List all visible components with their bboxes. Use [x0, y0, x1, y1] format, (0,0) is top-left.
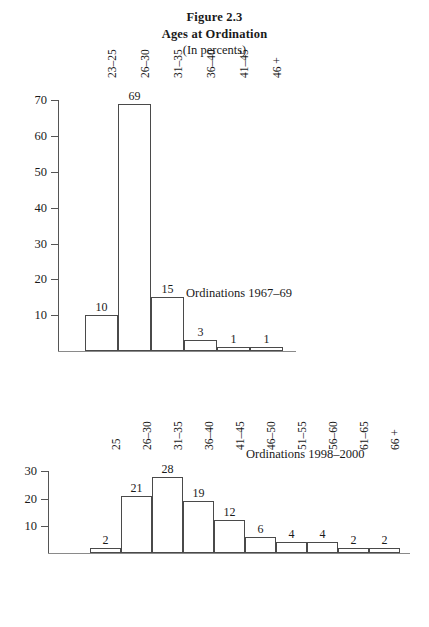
y-axis-tick	[51, 244, 58, 245]
x-axis-category-label: 41–45	[235, 421, 247, 450]
bar-value-label: 10	[85, 301, 118, 313]
chart2-annotation: Ordinations 1998–2000	[246, 448, 364, 461]
x-axis-category-label: 26–30	[142, 421, 154, 450]
x-axis-category-label: 61–65	[359, 421, 371, 450]
bar-value-label: 2	[338, 534, 369, 546]
bar	[217, 347, 250, 351]
chart-ordinations-1998-2000: 1020302252126–302831–351936–401241–45646…	[0, 440, 429, 627]
bar-value-label: 3	[184, 326, 217, 338]
x-axis-category-label: 36–40	[206, 49, 218, 78]
bar	[118, 104, 151, 351]
bar-value-label: 28	[152, 463, 183, 475]
bar-value-label: 2	[90, 534, 121, 546]
x-axis-category-label: 31–35	[173, 49, 185, 78]
x-axis-category-label: 25	[111, 439, 123, 451]
bar	[214, 520, 245, 553]
y-axis-tick	[41, 499, 48, 500]
x-axis-line	[48, 553, 410, 554]
bar	[121, 496, 152, 553]
x-axis-category-label: 26–30	[140, 49, 152, 78]
figure-title: Ages at Ordination	[0, 26, 429, 43]
bar	[245, 537, 276, 553]
y-axis-tick	[41, 526, 48, 527]
bar-value-label: 12	[214, 506, 245, 518]
bar-value-label: 69	[118, 90, 151, 102]
bar	[183, 501, 214, 553]
y-axis-tick	[51, 100, 58, 101]
y-axis-tick-label: 30	[16, 238, 47, 251]
x-axis-category-label: 23–25	[107, 49, 119, 78]
bar	[250, 347, 283, 351]
bar-value-label: 21	[121, 482, 152, 494]
bar-value-label: 6	[245, 523, 276, 535]
bar	[369, 548, 400, 553]
bar	[184, 340, 217, 351]
bar	[152, 477, 183, 553]
y-axis-tick-label: 30	[6, 465, 37, 478]
y-axis-tick	[51, 136, 58, 137]
x-axis-category-label: 31–35	[173, 421, 185, 450]
x-axis-category-label: 56–60	[328, 421, 340, 450]
x-axis-category-label: 36–40	[204, 421, 216, 450]
bar-value-label: 4	[276, 528, 307, 540]
bar	[307, 542, 338, 553]
y-axis-tick	[51, 172, 58, 173]
y-axis-tick	[41, 471, 48, 472]
y-axis-tick-label: 10	[6, 520, 37, 533]
y-axis-line	[48, 471, 49, 553]
x-axis-category-label: 46 +	[272, 57, 284, 78]
y-axis-tick-label: 40	[16, 202, 47, 215]
y-axis-tick-label: 10	[16, 309, 47, 322]
y-axis-tick	[51, 279, 58, 280]
y-axis-tick	[51, 315, 58, 316]
y-axis-tick-label: 50	[16, 166, 47, 179]
y-axis-line	[58, 100, 59, 351]
chart1-annotation: Ordinations 1967–69	[186, 287, 292, 300]
y-axis-tick	[51, 208, 58, 209]
chart2-plot-area: 1020302252126–302831–351936–401241–45646…	[0, 440, 429, 627]
bar-value-label: 2	[369, 534, 400, 546]
chart1-plot-area: 102030405060701023–256926–301531–35336–4…	[0, 70, 429, 420]
bar	[276, 542, 307, 553]
bar-value-label: 15	[151, 283, 184, 295]
y-axis-tick-label: 70	[16, 94, 47, 107]
y-axis-tick-label: 60	[16, 130, 47, 143]
bar-value-label: 4	[307, 528, 338, 540]
y-axis-tick-label: 20	[16, 273, 47, 286]
x-axis-category-label: 41–45	[239, 49, 251, 78]
bar-value-label: 1	[217, 333, 250, 345]
bar	[90, 548, 121, 553]
chart-ordinations-1967-69: 102030405060701023–256926–301531–35336–4…	[0, 70, 429, 420]
figure-number: Figure 2.3	[0, 9, 429, 26]
bar-value-label: 1	[250, 333, 283, 345]
bar-value-label: 19	[183, 487, 214, 499]
bar	[151, 297, 184, 351]
x-axis-category-label: 51–55	[297, 421, 309, 450]
x-axis-line	[58, 351, 296, 352]
bar	[338, 548, 369, 553]
y-axis-tick-label: 20	[6, 493, 37, 506]
x-axis-category-label: 66 +	[390, 429, 402, 450]
bar	[85, 315, 118, 351]
x-axis-category-label: 46–50	[266, 421, 278, 450]
